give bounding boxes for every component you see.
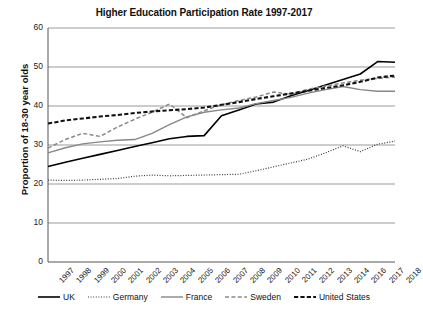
gridlines xyxy=(48,28,395,262)
legend-item-united-states[interactable]: United States xyxy=(294,292,370,302)
legend-swatch-france-icon xyxy=(161,293,183,301)
legend-swatch-sweden-icon xyxy=(225,293,247,301)
series-line-france xyxy=(48,87,395,153)
chart-legend: UKGermanyFranceSwedenUnited States xyxy=(0,292,408,302)
legend-swatch-uk-icon xyxy=(38,293,60,301)
series-line-sweden xyxy=(48,77,395,148)
series-lines xyxy=(48,62,395,181)
legend-item-sweden[interactable]: Sweden xyxy=(225,292,281,302)
legend-label: UK xyxy=(63,292,75,302)
legend-swatch-united-states-icon xyxy=(294,293,316,301)
series-line-germany xyxy=(48,141,395,180)
legend-label: United States xyxy=(319,292,370,302)
legend-swatch-germany-icon xyxy=(88,293,110,301)
legend-item-france[interactable]: France xyxy=(161,292,212,302)
legend-label: France xyxy=(186,292,212,302)
series-line-uk xyxy=(48,62,395,167)
legend-item-uk[interactable]: UK xyxy=(38,292,75,302)
legend-item-germany[interactable]: Germany xyxy=(88,292,148,302)
legend-label: Sweden xyxy=(250,292,281,302)
legend-label: Germany xyxy=(113,292,148,302)
